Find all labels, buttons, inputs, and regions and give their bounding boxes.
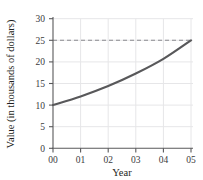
- x-tick-label: 05: [186, 155, 196, 165]
- x-tick-label: 00: [48, 155, 58, 165]
- x-tick-label: 03: [131, 155, 141, 165]
- x-axis-ticks: [53, 148, 191, 152]
- y-tick-label: 5: [40, 122, 45, 132]
- value-curve: [53, 40, 191, 105]
- y-tick-label: 15: [36, 79, 46, 89]
- y-axis-title: Value (in thousands of dollars): [5, 19, 17, 148]
- grid-lines: [53, 19, 193, 149]
- chart-plot-area: 30 25 20 15 10 5 0 00 01 02 03 04 05 Yea…: [0, 0, 203, 180]
- y-tick-label: 25: [36, 36, 46, 46]
- x-tick-labels: 00 01 02 03 04 05: [48, 155, 196, 165]
- y-axis-ticks: [49, 19, 53, 149]
- y-tick-label: 0: [40, 144, 45, 154]
- chart-container: 30 25 20 15 10 5 0 00 01 02 03 04 05 Yea…: [0, 0, 203, 180]
- x-tick-label: 02: [103, 155, 113, 165]
- y-tick-label: 10: [36, 101, 46, 111]
- y-tick-label: 30: [36, 14, 46, 24]
- x-tick-label: 04: [159, 155, 169, 165]
- y-tick-label: 20: [36, 57, 46, 67]
- x-axis-title: Year: [112, 167, 132, 178]
- x-tick-label: 01: [76, 155, 86, 165]
- y-tick-labels: 30 25 20 15 10 5 0: [36, 14, 46, 154]
